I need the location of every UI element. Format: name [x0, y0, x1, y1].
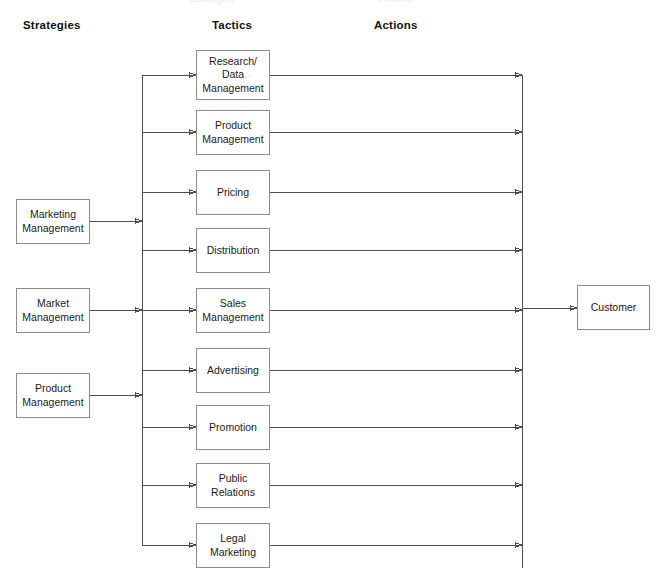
tactic-box-public-relations[interactable]: Public Relations: [196, 463, 270, 508]
tactic-product-management-line1: Product: [199, 119, 267, 133]
tactic-research-data-management-line2: Data: [199, 68, 267, 82]
tactic-promotion-line1: Promotion: [199, 421, 267, 435]
tactic-sales-management-line1: Sales: [199, 297, 267, 311]
tactic-public-relations-line2: Relations: [199, 486, 267, 500]
tactic-sales-management-line2: Management: [199, 311, 267, 325]
strategy-product-management-line1: Product: [19, 382, 87, 396]
strategy-product-management-line2: Management: [19, 396, 87, 410]
tactic-box-pricing[interactable]: Pricing: [196, 170, 270, 215]
tactic-pricing-line1: Pricing: [199, 186, 267, 200]
tactic-box-legal-marketing[interactable]: Legal Marketing: [196, 523, 270, 568]
strategy-box-market-management[interactable]: Market Management: [16, 288, 90, 333]
column-header-actions: Actions: [374, 20, 418, 32]
strategy-box-marketing-management[interactable]: Marketing Management: [16, 199, 90, 244]
tactic-legal-marketing-line2: Marketing: [199, 546, 267, 560]
tactic-advertising-line1: Advertising: [199, 364, 267, 378]
tactic-box-product-management[interactable]: Product Management: [196, 110, 270, 155]
outcome-box-customer[interactable]: Customer: [577, 285, 650, 330]
tactic-box-advertising[interactable]: Advertising: [196, 348, 270, 393]
connector-lines: [0, 0, 667, 581]
strategy-market-management-line1: Market: [19, 297, 87, 311]
cropped-header-text-right: Actions: [380, 0, 413, 4]
tactic-distribution-line1: Distribution: [199, 244, 267, 258]
tactic-research-data-management-line1: Research/: [199, 55, 267, 69]
cropped-header-text-left: Strategies: [190, 0, 235, 4]
strategy-market-management-line2: Management: [19, 311, 87, 325]
tactic-product-management-line2: Management: [199, 133, 267, 147]
outcome-customer-label: Customer: [580, 301, 647, 315]
column-header-strategies: Strategies: [23, 20, 81, 32]
strategy-marketing-management-line1: Marketing: [19, 208, 87, 222]
cropped-page-header: Strategies Actions: [0, 0, 667, 9]
strategy-marketing-management-line2: Management: [19, 222, 87, 236]
tactic-box-research-data-management[interactable]: Research/ Data Management: [196, 50, 270, 100]
tactic-box-distribution[interactable]: Distribution: [196, 228, 270, 273]
column-header-tactics: Tactics: [212, 20, 252, 32]
tactic-box-sales-management[interactable]: Sales Management: [196, 288, 270, 333]
tactic-box-promotion[interactable]: Promotion: [196, 405, 270, 450]
tactic-legal-marketing-line1: Legal: [199, 532, 267, 546]
diagram-canvas: Strategies Actions Strategies Tactics Ac…: [0, 0, 667, 581]
tactic-public-relations-line1: Public: [199, 472, 267, 486]
tactic-research-data-management-line3: Management: [199, 82, 267, 96]
strategy-box-product-management[interactable]: Product Management: [16, 373, 90, 418]
